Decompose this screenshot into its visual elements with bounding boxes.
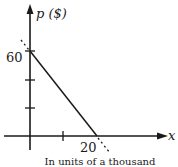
y-axis-label: p ($) bbox=[36, 6, 67, 21]
x-tick-label-20: 20 bbox=[80, 140, 97, 155]
demand-line-extension-bottom bbox=[98, 138, 110, 153]
demand-chart: p ($) x 60 20 In units of a thousand bbox=[0, 0, 178, 167]
y-axis-arrow-icon bbox=[27, 4, 34, 14]
demand-line-extension-top bbox=[21, 40, 29, 50]
chart-caption: In units of a thousand bbox=[45, 156, 156, 167]
demand-line bbox=[30, 51, 97, 136]
x-axis-label: x bbox=[168, 128, 176, 143]
y-tick-label-60: 60 bbox=[6, 50, 23, 65]
x-axis-arrow-icon bbox=[157, 133, 168, 140]
